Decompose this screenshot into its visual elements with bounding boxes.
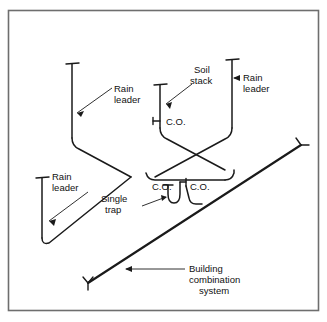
- label-soil-stack-line2: stack: [190, 75, 212, 86]
- label-rain-leader-left-line1: Rain: [114, 83, 134, 94]
- label-building-system-line3: system: [199, 285, 229, 296]
- label-rain-leader-left-line2: leader: [114, 94, 140, 105]
- label-single-trap-line1: Single: [101, 193, 127, 204]
- label-rain-leader-right-line2: leader: [243, 83, 269, 94]
- label-cleanout-trap: C.O.: [190, 181, 210, 192]
- label-building-system-line1: Building: [189, 263, 223, 274]
- rain-leader-lower-left-top-cap: [36, 177, 49, 178]
- figure-border: [9, 11, 319, 311]
- label-building-system-line2: combination: [189, 274, 240, 285]
- label-cleanout-soil-stack: C.O.: [166, 116, 186, 127]
- piping-diagram-svg: Rain leader Rain leader Soil stack Rain …: [0, 0, 327, 322]
- rain-leader-left-top-cap: [66, 63, 79, 64]
- label-rain-leader-lower-left-line2: leader: [52, 182, 78, 193]
- diagram-figure: Rain leader Rain leader Soil stack Rain …: [0, 0, 327, 322]
- label-rain-leader-lower-left-line1: Rain: [52, 171, 72, 182]
- label-soil-stack-line1: Soil: [194, 64, 210, 75]
- label-rain-leader-right-line1: Rain: [243, 72, 263, 83]
- label-single-trap-line2: trap: [105, 204, 121, 215]
- soil-stack-top-cap: [154, 84, 167, 85]
- rain-leader-right-top-cap: [226, 59, 239, 60]
- label-cleanout-collector: C.O.: [152, 181, 172, 192]
